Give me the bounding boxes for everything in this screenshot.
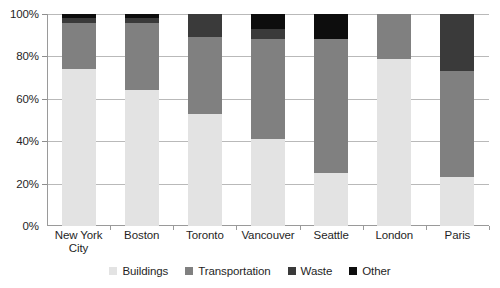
bar-segment-buildings[interactable]	[62, 69, 96, 226]
bar-segment-transportation[interactable]	[62, 23, 96, 70]
x-tick-label: Paris	[426, 229, 489, 242]
y-tick-label: 20%	[16, 178, 39, 190]
x-tick-label: Boston	[110, 229, 173, 242]
legend-item-buildings[interactable]: Buildings	[109, 265, 168, 277]
bars-layer	[47, 14, 489, 226]
stacked-bar[interactable]	[251, 14, 285, 226]
legend-swatch-icon	[185, 267, 193, 275]
bar-segment-other[interactable]	[314, 14, 348, 39]
bar-slot	[377, 14, 411, 226]
bar-segment-transportation[interactable]	[314, 39, 348, 173]
legend-item-waste[interactable]: Waste	[288, 265, 333, 277]
stacked-bar-chart: 0%20%40%60%80%100% New York CityBostonTo…	[0, 0, 500, 288]
y-tick-label: 40%	[16, 135, 39, 147]
bar-segment-other[interactable]	[251, 14, 285, 29]
bar-segment-transportation[interactable]	[188, 37, 222, 113]
bar-slot	[314, 14, 348, 226]
stacked-bar[interactable]	[440, 14, 474, 226]
x-axis: New York CityBostonTorontoVancouverSeatt…	[47, 229, 489, 265]
legend-swatch-icon	[109, 267, 117, 275]
y-tick-label: 60%	[16, 93, 39, 105]
y-tick-label: 80%	[16, 50, 39, 62]
x-tick-label: Seattle	[300, 229, 363, 242]
bar-slot	[188, 14, 222, 226]
bar-slot	[125, 14, 159, 226]
bar-segment-transportation[interactable]	[440, 71, 474, 177]
legend-label: Buildings	[122, 265, 168, 277]
bar-segment-waste[interactable]	[251, 29, 285, 40]
bar-slot	[251, 14, 285, 226]
bar-segment-buildings[interactable]	[440, 177, 474, 226]
bar-segment-waste[interactable]	[188, 14, 222, 37]
y-axis: 0%20%40%60%80%100%	[0, 0, 47, 240]
stacked-bar[interactable]	[188, 14, 222, 226]
stacked-bar[interactable]	[377, 14, 411, 226]
bar-segment-waste[interactable]	[440, 14, 474, 71]
legend-item-other[interactable]: Other	[349, 265, 390, 277]
x-tick-label: New York City	[47, 229, 110, 255]
bar-slot	[62, 14, 96, 226]
legend-swatch-icon	[288, 267, 296, 275]
bar-segment-buildings[interactable]	[188, 114, 222, 226]
bar-segment-buildings[interactable]	[251, 139, 285, 226]
x-tick-label: London	[363, 229, 426, 242]
bar-segment-transportation[interactable]	[251, 39, 285, 139]
stacked-bar[interactable]	[314, 14, 348, 226]
bar-segment-transportation[interactable]	[125, 23, 159, 91]
bar-slot	[440, 14, 474, 226]
legend-item-transportation[interactable]: Transportation	[185, 265, 270, 277]
y-tick-label: 100%	[10, 8, 39, 20]
bar-segment-transportation[interactable]	[377, 14, 411, 59]
x-tick-mark	[489, 226, 490, 230]
stacked-bar[interactable]	[125, 14, 159, 226]
x-tick-label: Vancouver	[236, 229, 299, 242]
legend-label: Transportation	[198, 265, 270, 277]
x-tick-label: Toronto	[173, 229, 236, 242]
y-tick-label: 0%	[23, 220, 39, 232]
bar-segment-buildings[interactable]	[377, 59, 411, 226]
legend-label: Other	[362, 265, 390, 277]
bar-segment-buildings[interactable]	[314, 173, 348, 226]
bar-segment-buildings[interactable]	[125, 90, 159, 226]
legend-label: Waste	[301, 265, 333, 277]
chart-legend: BuildingsTransportationWasteOther	[0, 262, 500, 280]
legend-swatch-icon	[349, 267, 357, 275]
stacked-bar[interactable]	[62, 14, 96, 226]
